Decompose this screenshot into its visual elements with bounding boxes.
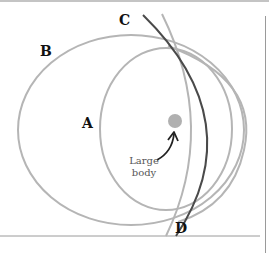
caption-line-2: body: [124, 167, 164, 179]
label-b: B: [40, 44, 52, 58]
large-body-caption: Large body: [124, 155, 164, 179]
large-body: [168, 114, 182, 128]
caption-line-1: Large: [124, 155, 164, 167]
label-c: C: [119, 13, 130, 27]
label-a: A: [82, 116, 93, 130]
label-d: D: [175, 221, 187, 235]
orbit-a: [100, 48, 232, 210]
orbit-diagram: [0, 0, 269, 253]
